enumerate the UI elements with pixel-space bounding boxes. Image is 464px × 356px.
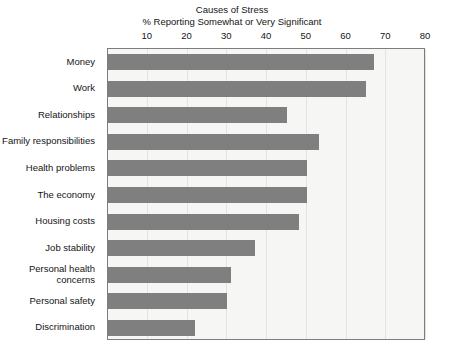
category-label: Personal health concerns [0, 263, 95, 285]
bar [108, 214, 299, 230]
gridline-70 [385, 49, 386, 339]
stress-causes-bar-chart: Causes of Stress % Reporting Somewhat or… [0, 0, 464, 356]
bar [108, 187, 307, 203]
category-label: Health problems [0, 162, 95, 173]
x-tick-label-70: 70 [380, 30, 391, 42]
x-tick-label-40: 40 [261, 30, 272, 42]
bar [108, 267, 231, 283]
category-label: Job stability [0, 242, 95, 253]
category-label: Housing costs [0, 215, 95, 226]
category-label: Family responsibilities [0, 135, 95, 146]
gridline-80 [425, 49, 426, 339]
chart-title: Causes of Stress [0, 4, 464, 16]
bar [108, 320, 195, 336]
category-label: Work [0, 82, 95, 93]
category-label: The economy [0, 189, 95, 200]
chart-title-block: Causes of Stress % Reporting Somewhat or… [0, 4, 464, 28]
plot-area [107, 48, 425, 340]
chart-subtitle: % Reporting Somewhat or Very Significant [0, 16, 464, 28]
bar [108, 107, 287, 123]
x-tick-label-80: 80 [420, 30, 431, 42]
category-label: Personal safety [0, 295, 95, 306]
category-label: Discrimination [0, 321, 95, 332]
bar [108, 240, 255, 256]
x-tick-label-30: 30 [221, 30, 232, 42]
y-axis-category-labels: MoneyWorkRelationshipsFamily responsibil… [0, 48, 103, 340]
category-label: Money [0, 56, 95, 67]
x-tick-label-20: 20 [181, 30, 192, 42]
x-tick-label-50: 50 [300, 30, 311, 42]
x-tick-label-60: 60 [340, 30, 351, 42]
x-axis-tick-labels: 1020304050607080 [0, 30, 464, 44]
category-label: Relationships [0, 109, 95, 120]
bar [108, 160, 307, 176]
bar [108, 293, 227, 309]
bar [108, 81, 366, 97]
bar [108, 134, 319, 150]
x-tick-label-10: 10 [141, 30, 152, 42]
bar [108, 54, 374, 70]
